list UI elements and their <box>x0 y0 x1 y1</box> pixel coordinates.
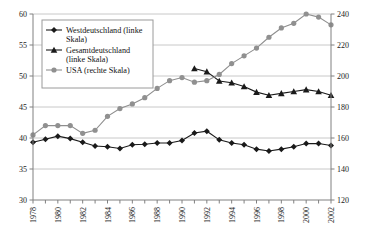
data-point-circle <box>241 53 246 58</box>
right-axis-tick-label: 160 <box>337 134 349 143</box>
data-point-circle <box>254 46 259 51</box>
data-point-circle <box>43 123 48 128</box>
line-chart: 3035404550556012014016018020022024019781… <box>0 0 368 240</box>
data-point-triangle <box>191 65 198 71</box>
x-axis-tick-label: 1982 <box>79 207 88 223</box>
data-point-circle <box>142 95 147 100</box>
data-point-circle <box>51 67 56 72</box>
legend-label: Westdeutschland (linke <box>66 26 143 35</box>
data-point-circle <box>204 78 209 83</box>
x-axis-tick-label: 2002 <box>327 207 336 223</box>
data-point-diamond <box>67 136 73 142</box>
data-point-circle <box>179 75 184 80</box>
data-point-triangle <box>253 89 260 95</box>
data-point-diamond <box>142 141 148 147</box>
series-1 <box>30 128 334 154</box>
data-point-circle <box>130 101 135 106</box>
legend-label: (linke Skala) <box>66 55 108 64</box>
x-axis-tick-label: 1990 <box>178 207 187 223</box>
data-point-circle <box>217 72 222 77</box>
left-axis-tick-label: 50 <box>19 72 27 81</box>
right-axis-tick-label: 200 <box>337 72 349 81</box>
data-point-circle <box>105 114 110 119</box>
x-axis-tick-label: 1980 <box>54 207 63 223</box>
legend-label: Gesamtdeutschland <box>66 46 130 55</box>
data-point-circle <box>192 80 197 85</box>
x-axis-tick-label: 1986 <box>128 207 137 223</box>
data-point-circle <box>80 131 85 136</box>
data-point-diamond <box>117 146 123 152</box>
left-axis-tick-label: 60 <box>19 10 27 19</box>
left-axis-tick-label: 40 <box>19 134 27 143</box>
left-axis-tick-label: 35 <box>19 165 27 174</box>
x-axis-tick-label: 2000 <box>302 207 311 223</box>
x-axis-tick-label: 1988 <box>153 207 162 223</box>
x-axis-tick-label: 1984 <box>104 207 113 223</box>
x-axis-tick-label: 1996 <box>253 207 262 223</box>
series-line <box>194 69 331 96</box>
x-axis-tick-label: 1998 <box>277 207 286 223</box>
data-point-diamond <box>241 142 247 148</box>
legend-label: USA (rechte Skala) <box>66 66 130 75</box>
data-point-diamond <box>303 141 309 147</box>
data-point-diamond <box>42 136 48 142</box>
chart-legend: Westdeutschland (linkeSkala)Gesamtdeutsc… <box>42 20 153 88</box>
left-axis-tick-label: 45 <box>19 103 27 112</box>
x-axis-tick-label: 1994 <box>228 207 237 223</box>
data-point-diamond <box>316 141 322 147</box>
right-axis-tick-label: 220 <box>337 41 349 50</box>
data-point-circle <box>229 61 234 66</box>
data-point-diamond <box>254 146 260 152</box>
left-axis-tick-label: 30 <box>19 196 27 205</box>
data-point-diamond <box>92 143 98 149</box>
data-point-circle <box>304 11 309 16</box>
data-point-diamond <box>278 146 284 152</box>
data-point-diamond <box>266 148 272 154</box>
data-point-diamond <box>167 140 173 146</box>
data-point-diamond <box>154 140 160 146</box>
legend-label: Skala) <box>66 35 87 44</box>
data-point-diamond <box>291 144 297 150</box>
data-point-circle <box>291 21 296 26</box>
data-point-circle <box>316 15 321 20</box>
chart-container: 3035404550556012014016018020022024019781… <box>0 0 368 240</box>
right-axis-tick-label: 180 <box>337 103 349 112</box>
data-point-circle <box>68 123 73 128</box>
data-point-circle <box>279 25 284 30</box>
data-point-circle <box>266 35 271 40</box>
data-point-diamond <box>229 140 235 146</box>
data-point-diamond <box>105 144 111 150</box>
right-axis-tick-label: 120 <box>337 196 349 205</box>
data-point-circle <box>92 128 97 133</box>
x-axis-tick-label: 1978 <box>29 207 38 223</box>
data-point-circle <box>55 123 60 128</box>
data-point-triangle <box>303 86 310 92</box>
x-axis-tick-label: 1992 <box>203 207 212 223</box>
data-point-diamond <box>80 139 86 145</box>
series-2 <box>191 65 334 98</box>
data-point-circle <box>155 86 160 91</box>
left-axis-tick-label: 55 <box>19 41 27 50</box>
right-axis-tick-label: 140 <box>337 165 349 174</box>
data-point-diamond <box>191 130 197 136</box>
data-point-diamond <box>129 142 135 148</box>
right-axis-tick-label: 240 <box>337 10 349 19</box>
data-point-circle <box>167 78 172 83</box>
data-point-circle <box>117 106 122 111</box>
